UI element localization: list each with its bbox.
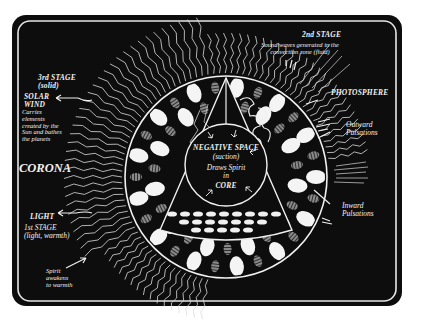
- label-photosphere: PHOTOSPHERE: [331, 89, 389, 97]
- label-sound-waves: Sound waves generated in the convection …: [240, 42, 360, 56]
- label-light: LIGHT: [30, 213, 54, 221]
- label-third-stage: 3rd STAGE (solid): [38, 74, 76, 90]
- label-solar-wind: SOLAR WIND: [24, 93, 49, 109]
- sun-structure-diagram: 3rd STAGE (solid) SOLAR WIND Carries ele…: [0, 0, 425, 324]
- label-draws-spirit: Draws Spirit in: [186, 164, 266, 180]
- label-negative-space: NEGATIVE SPACE: [186, 144, 266, 152]
- label-core: CORE: [186, 182, 266, 190]
- label-corona: CORONA: [19, 162, 71, 175]
- label-first-stage: 1st STAGE (light, warmth): [24, 224, 69, 240]
- label-solar-wind-desc: Carries elements created by the Sun and …: [22, 109, 62, 143]
- label-suction: (suction): [186, 153, 266, 161]
- label-spirit-awakens: Spirit awakens to warmth: [46, 268, 73, 288]
- label-outward-pulsations: Outward Pulsations: [346, 121, 378, 137]
- label-inward-pulsations: Inward Pulsations: [342, 202, 374, 218]
- label-second-stage: 2nd STAGE: [302, 31, 341, 39]
